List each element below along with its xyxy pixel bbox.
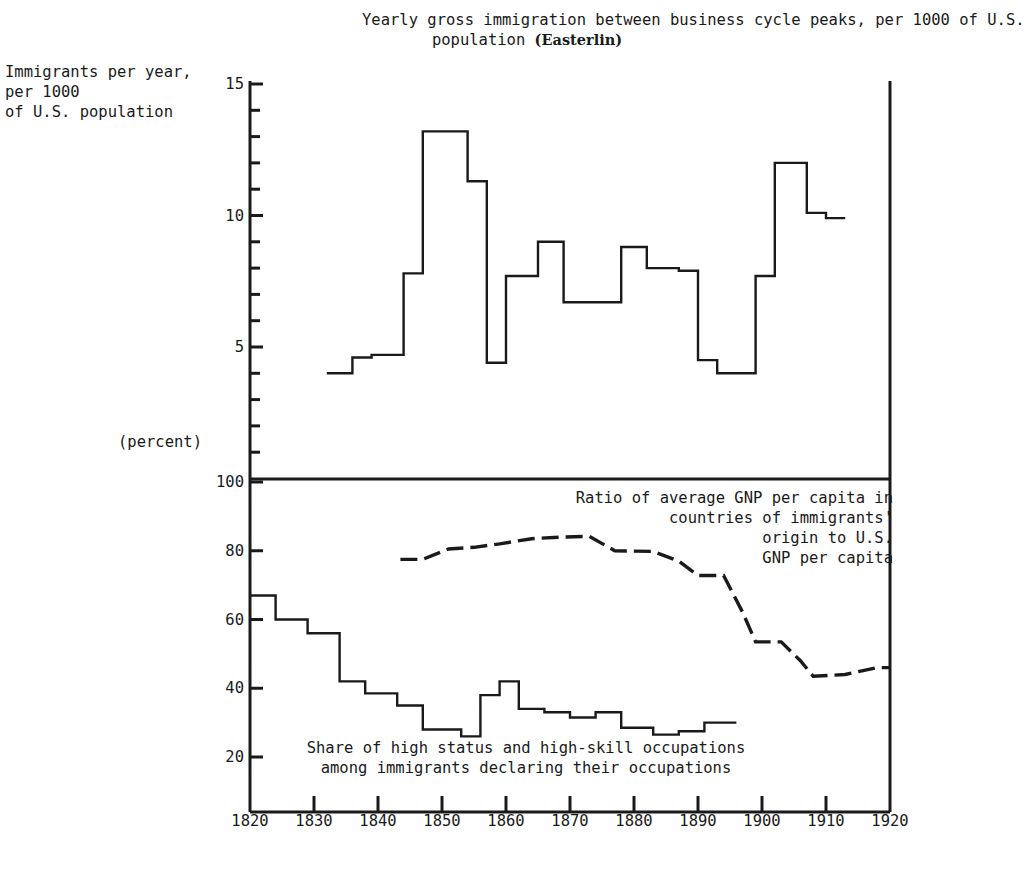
series-line: [327, 131, 845, 373]
series-line: [400, 536, 890, 676]
series-line: [250, 595, 736, 736]
axes-layer: [250, 81, 890, 812]
series-layer: [250, 131, 890, 736]
